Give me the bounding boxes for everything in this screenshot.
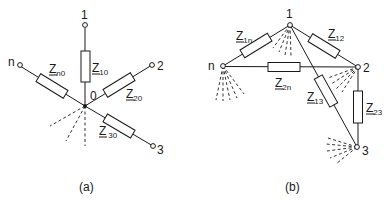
node-label-3-b: 3: [362, 144, 369, 158]
dashed-fan-node-3: [326, 138, 357, 164]
center-node-label-0: 0: [90, 89, 97, 103]
impedance-label-z12: Z12: [328, 27, 345, 43]
dashed-additional-branches-a: [50, 106, 85, 146]
node-label-1-b: 1: [286, 7, 293, 21]
impedance-label-z1n: Z1n: [236, 29, 252, 45]
panel-b-mesh-network: Z1n Z12 Z2n Z13: [208, 7, 383, 194]
star-point-node-0: [83, 104, 87, 108]
node-label-1-a: 1: [81, 8, 88, 22]
dashed-fan-node-n: [216, 66, 244, 101]
caption-b: (b): [285, 180, 300, 194]
terminal-1-a: [83, 23, 88, 28]
terminal-2-a: [150, 63, 155, 68]
branch-zn0: n Zn0: [8, 55, 85, 106]
caption-a: (a): [79, 180, 94, 194]
terminal-3-a: [151, 144, 156, 149]
node-label-n-b: n: [208, 59, 215, 73]
terminal-1-b: [288, 23, 293, 28]
impedance-label-z10: Z10: [92, 61, 109, 77]
node-label-2-b: 2: [363, 61, 370, 75]
impedance-label-z2n: Z2n: [275, 76, 291, 92]
impedance-z23-resistor: [354, 91, 363, 123]
node-label-3-a: 3: [157, 143, 164, 157]
node-label-n-a: n: [8, 55, 15, 69]
branch-z12: Z12: [290, 25, 358, 67]
impedance-label-z23: Z23: [366, 101, 383, 117]
branch-z23: Z23: [354, 67, 383, 147]
impedance-label-z20: Z20: [126, 87, 143, 103]
panel-a-star-network: 1 Z10 2 Z20 0 3 Z30: [8, 8, 164, 194]
terminal-n-a: [18, 63, 23, 68]
terminal-2-b: [356, 65, 361, 70]
dashed-fan-node-2: [328, 67, 358, 92]
node-label-2-a: 2: [157, 59, 164, 73]
branch-z30: 3 Z30: [85, 106, 164, 157]
terminal-3-b: [355, 145, 360, 150]
terminal-n-b: [221, 64, 226, 69]
impedance-label-zn0: Zn0: [49, 62, 66, 78]
branch-z1n: Z1n: [223, 25, 290, 66]
impedance-z10-resistor: [81, 51, 90, 82]
network-diagram: 1 Z10 2 Z20 0 3 Z30: [0, 0, 392, 204]
impedance-z2n-resistor: [268, 63, 300, 72]
